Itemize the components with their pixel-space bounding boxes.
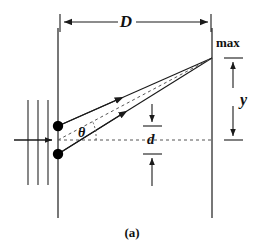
- label-fringe-position-y: y: [240, 92, 247, 108]
- dimension-D: [60, 14, 211, 32]
- incident-plane-wavefronts: [28, 100, 48, 185]
- figure-caption: (a): [124, 226, 139, 239]
- label-angle-theta: θ: [78, 126, 85, 140]
- ray-from-upper-slit: [58, 58, 212, 126]
- label-distance-D: D: [120, 13, 132, 30]
- label-maximum: max: [216, 36, 240, 49]
- lower-slit-source: [53, 149, 63, 159]
- label-slit-separation-d: d: [147, 132, 155, 147]
- upper-slit-source: [53, 121, 63, 131]
- figure-container: D max y d θ (a): [0, 0, 264, 252]
